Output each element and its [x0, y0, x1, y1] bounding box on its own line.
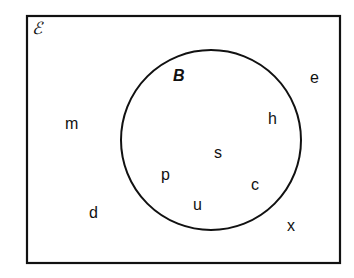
element-c: c — [251, 176, 259, 193]
element-u: u — [193, 196, 202, 213]
element-h: h — [268, 110, 277, 127]
element-e: e — [310, 69, 319, 86]
element-p: p — [161, 166, 170, 183]
universal-set-label: ℰ — [32, 19, 44, 38]
set-b-circle — [121, 50, 301, 230]
set-b-label: B — [173, 67, 185, 84]
element-m: m — [65, 115, 78, 132]
element-s: s — [214, 144, 222, 161]
venn-diagram: ℰ B m e d x h s p c u — [0, 0, 354, 278]
element-x: x — [287, 217, 295, 234]
element-d: d — [89, 204, 98, 221]
